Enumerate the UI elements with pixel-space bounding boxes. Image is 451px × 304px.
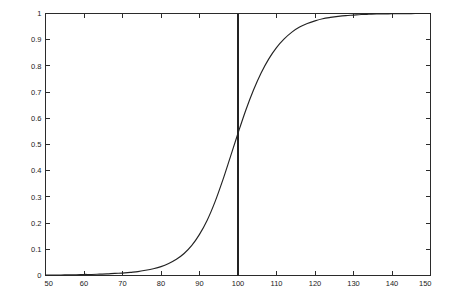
x-tick-label: 150 (419, 279, 432, 288)
y-tick-label: 0.5 (31, 140, 41, 149)
y-tick-label: 0.2 (31, 219, 41, 228)
y-tick-label: 0.7 (31, 88, 41, 97)
y-tick-label: 0.6 (31, 114, 41, 123)
x-tick-label: 140 (386, 279, 399, 288)
y-tick-label: 0.8 (31, 62, 41, 71)
x-tick-label: 130 (347, 279, 360, 288)
y-axis-tick-labels: 00.10.20.30.40.50.60.70.80.91 (31, 9, 41, 280)
figure-canvas: 5060708090100110120130140150 00.10.20.30… (0, 0, 451, 304)
x-tick-label: 100 (232, 279, 245, 288)
x-tick-label: 80 (157, 279, 165, 288)
y-tick-label: 0.4 (31, 166, 41, 175)
x-axis-tick-labels: 5060708090100110120130140150 (45, 279, 432, 288)
y-tick-label: 1 (37, 9, 41, 18)
y-tick-label: 0.1 (31, 245, 41, 254)
y-tick-label: 0 (37, 271, 41, 280)
x-tick-label: 60 (80, 279, 88, 288)
x-tick-label: 50 (45, 279, 53, 288)
x-tick-label: 90 (195, 279, 203, 288)
y-tick-label: 0.9 (31, 35, 41, 44)
x-tick-label: 120 (309, 279, 322, 288)
sigmoid-chart: 5060708090100110120130140150 00.10.20.30… (0, 0, 451, 304)
x-tick-label: 70 (118, 279, 126, 288)
y-tick-label: 0.3 (31, 193, 41, 202)
x-tick-label: 110 (271, 279, 283, 288)
data-series-group (46, 13, 431, 275)
